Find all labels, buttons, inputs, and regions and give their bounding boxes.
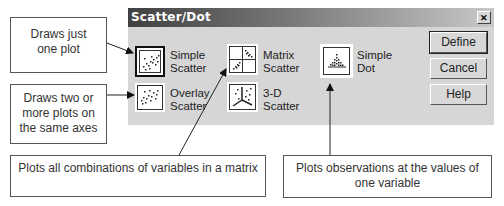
- arrow-simple-scatter: [107, 43, 133, 53]
- callout-arrows: [0, 0, 504, 206]
- arrow-matrix-scatter: [179, 69, 226, 155]
